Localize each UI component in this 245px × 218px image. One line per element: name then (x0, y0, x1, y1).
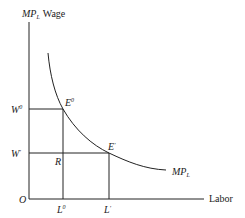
r-label: R (54, 156, 61, 167)
e0-label: E0 (64, 97, 74, 108)
curve-label: MPL (171, 166, 190, 178)
w0-label: W0 (11, 104, 22, 115)
l0-label: L0 (56, 204, 66, 215)
x-axis-label: Labor (209, 193, 234, 204)
w1-label: W′ (11, 148, 21, 159)
y-axis-label: MPLWage (21, 8, 66, 20)
mpl-wage-diagram: MPLWage Labor O W0 W′ L0 L′ E0 E′ R MPL (0, 0, 245, 218)
mpl-curve (48, 53, 166, 170)
e1-label: E′ (107, 141, 116, 152)
l1-label: L′ (103, 204, 112, 215)
origin-label: O (19, 194, 26, 205)
